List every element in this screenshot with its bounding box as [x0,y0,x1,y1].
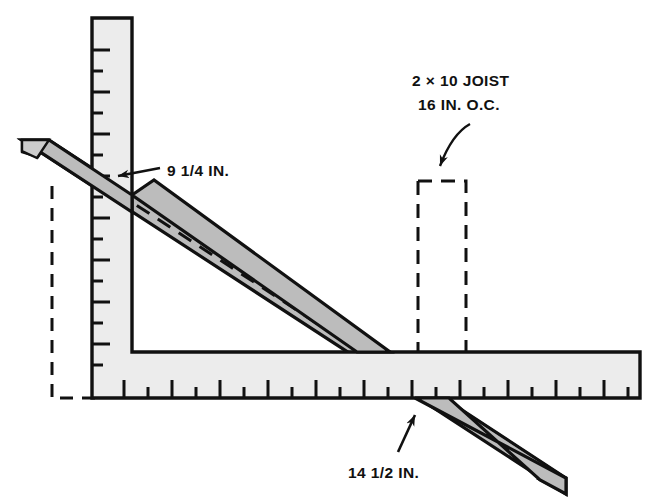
framing-square-diagram: 9 1/4 IN. 2 × 10 JOIST 16 IN. O.C. 14 1/… [0,0,654,500]
joist-label-line1: 2 × 10 JOIST [412,72,510,89]
run-label: 14 1/2 IN. [348,464,419,481]
joist-label-line2: 16 IN. O.C. [418,96,500,113]
diagram-canvas: 9 1/4 IN. 2 × 10 JOIST 16 IN. O.C. 14 1/… [0,0,654,500]
rise-label: 9 1/4 IN. [167,162,229,179]
